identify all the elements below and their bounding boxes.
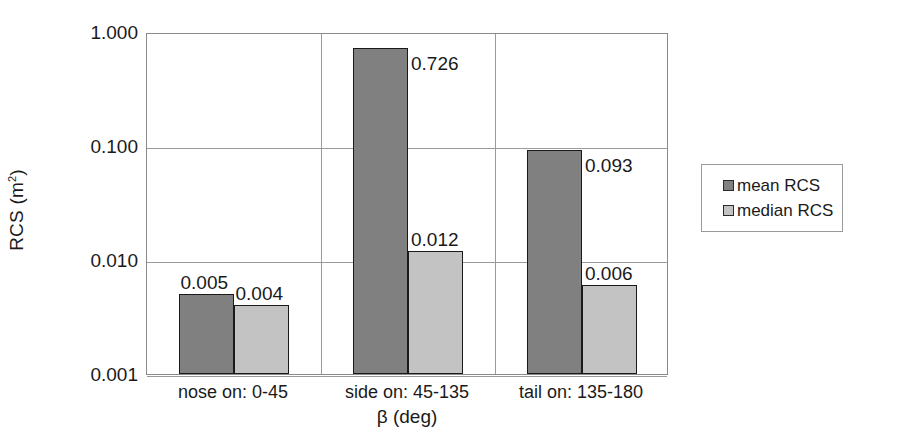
bar-value-label: 0.012: [411, 230, 459, 249]
legend-swatch-median: [723, 205, 734, 216]
plot-area: 0.0050.0040.7260.0120.0930.006: [146, 33, 668, 375]
y-axis-title-exponent: 2: [6, 176, 18, 182]
bar-value-label: 0.093: [585, 156, 633, 175]
y-axis-tick-labels: 1.0000.1000.0100.001: [46, 33, 138, 375]
bar-value-label: 0.726: [411, 54, 459, 73]
legend-swatch-mean: [723, 180, 734, 191]
legend-item[interactable]: median RCS: [702, 198, 842, 223]
y-axis-title-tail: ): [6, 169, 27, 176]
legend: mean RCSmedian RCS: [701, 164, 843, 232]
bar-mean[interactable]: [353, 48, 408, 374]
bar-mean[interactable]: [527, 150, 582, 374]
category-separator-line: [321, 34, 322, 374]
bar-median[interactable]: [408, 251, 463, 374]
bar-mean[interactable]: [179, 294, 234, 374]
bar-value-label: 0.006: [585, 264, 633, 283]
bar-median[interactable]: [582, 285, 637, 374]
gridline-horizontal: [147, 376, 667, 377]
y-axis-tick-label: 0.001: [54, 365, 138, 384]
y-axis-tick-label: 1.000: [54, 23, 138, 42]
legend-label: median RCS: [737, 202, 833, 219]
y-axis-tick-label: 0.010: [54, 251, 138, 270]
x-axis-category-labels: nose on: 0-45side on: 45-135tail on: 135…: [146, 381, 668, 405]
x-axis-category-label: tail on: 135-180: [494, 381, 668, 403]
bar-median[interactable]: [234, 305, 289, 374]
legend-label: mean RCS: [737, 177, 820, 194]
x-axis-title: β (deg): [146, 406, 668, 428]
x-axis-category-label: nose on: 0-45: [146, 381, 320, 403]
y-axis-tick-label: 0.100: [54, 137, 138, 156]
legend-item[interactable]: mean RCS: [702, 173, 842, 198]
bar-value-label: 0.004: [236, 284, 284, 303]
x-axis-category-label: side on: 45-135: [320, 381, 494, 403]
category-separator-line: [495, 34, 496, 374]
bar-value-label: 0.005: [181, 273, 229, 292]
rcs-bar-chart-figure: RCS (m2) 1.0000.1000.0100.001 0.0050.004…: [0, 0, 909, 446]
y-axis-title-base: RCS (m: [6, 182, 27, 251]
y-axis-title: RCS (m2): [6, 120, 32, 300]
